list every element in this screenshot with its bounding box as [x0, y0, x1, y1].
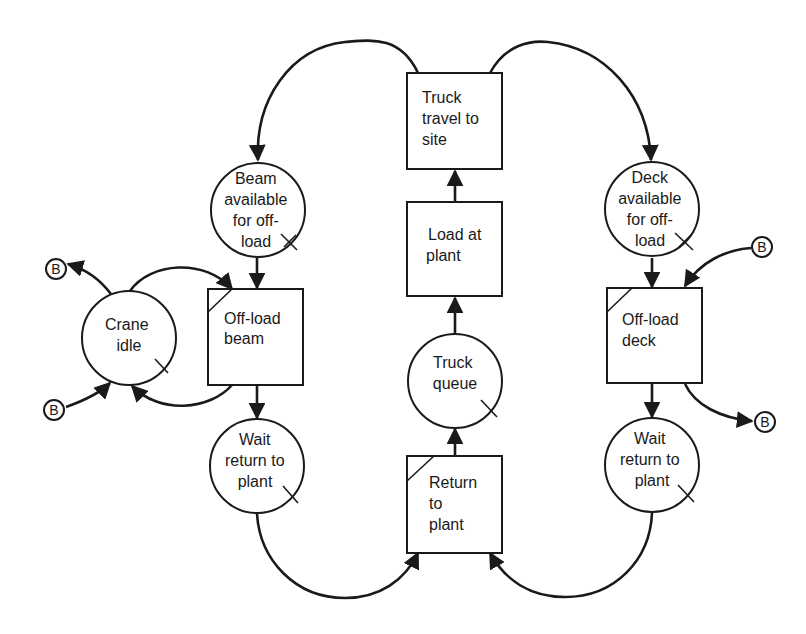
edge-crane-to-offload-beam — [130, 267, 232, 291]
label-line: idle — [117, 337, 142, 354]
node-truck-queue: Truck queue — [408, 334, 502, 428]
label-line: return to — [620, 451, 680, 468]
edge-offload-deck-to-b-bottom — [685, 384, 752, 421]
connector-label: B — [49, 402, 58, 418]
node-return-to-plant: Return to plant — [407, 456, 502, 553]
label-line: available — [224, 191, 287, 208]
node-wait-return-right: Wait return to plant — [605, 418, 699, 512]
activity-cycle-diagram: Beam available for off- load Off-load be… — [0, 0, 806, 634]
label-line: Beam — [235, 170, 277, 187]
label-line: for off- — [233, 212, 279, 229]
label-line: plant — [238, 473, 273, 490]
edge-truck-travel-to-beam-available — [258, 41, 418, 160]
label-line: Deck — [632, 169, 669, 186]
label-line: site — [422, 131, 447, 148]
edge-b-top-to-offload-deck — [685, 248, 751, 286]
label-line: beam — [224, 330, 264, 347]
edge-wait-left-to-return — [257, 514, 418, 598]
label-line: load — [635, 232, 665, 249]
connector-b-right-top: B — [752, 237, 772, 257]
label-line: load — [241, 233, 271, 250]
node-deck-available: Deck available for off- load — [605, 162, 699, 256]
label-line: Return — [429, 474, 477, 491]
label-line: return to — [225, 452, 285, 469]
label-line: Truck — [433, 354, 473, 371]
node-beam-available: Beam available for off- load — [211, 163, 305, 257]
label-line: Wait — [239, 431, 271, 448]
label-line: Truck — [422, 89, 462, 106]
label-line: Crane — [105, 316, 149, 333]
edge-truck-travel-to-deck-available — [490, 42, 651, 160]
edge-offload-beam-to-crane — [132, 385, 232, 406]
node-offload-deck: Off-load deck — [607, 288, 702, 383]
label-line: travel to — [422, 110, 479, 127]
connector-b-right-bottom: B — [755, 412, 775, 432]
edge-crane-to-b-top — [68, 264, 111, 294]
label-line: Wait — [634, 430, 666, 447]
connector-b-left-top: B — [46, 259, 66, 279]
connector-b-left-bottom: B — [44, 400, 64, 420]
connector-label: B — [51, 261, 60, 277]
label-line: deck — [622, 332, 657, 349]
edge-wait-right-to-return — [490, 513, 652, 597]
node-crane-idle: Crane idle — [82, 291, 176, 385]
label-line: queue — [433, 375, 478, 392]
label-line: Off-load — [224, 310, 281, 327]
node-load-at-plant: Load at plant — [407, 202, 502, 296]
label-line: plant — [426, 247, 461, 264]
label-line: plant — [429, 516, 464, 533]
connector-label: B — [760, 414, 769, 430]
node-offload-beam: Off-load beam — [208, 289, 303, 385]
label-line: available — [618, 190, 681, 207]
label-line: to — [429, 495, 442, 512]
label-line: plant — [635, 472, 670, 489]
edge-b-bottom-to-crane — [66, 383, 110, 407]
node-truck-travel-to-site: Truck travel to site — [407, 73, 502, 169]
node-wait-return-left: Wait return to plant — [210, 419, 304, 513]
connector-label: B — [757, 239, 766, 255]
label-line: for off- — [627, 211, 673, 228]
label-line: Load at — [428, 226, 482, 243]
label-line: Off-load — [622, 311, 679, 328]
